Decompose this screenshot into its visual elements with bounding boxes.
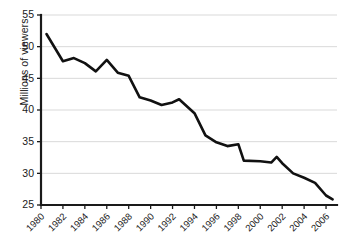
x-tick-label: 1982	[46, 211, 69, 234]
x-tick-label: 1980	[24, 211, 47, 234]
x-tick-label: 1992	[155, 211, 178, 234]
y-tick-label: 35	[22, 135, 34, 147]
x-tick-label: 2000	[243, 211, 266, 234]
x-axis-ticks-group: 1980198219841986198819901992199419961998…	[24, 205, 332, 233]
x-tick-label: 2006	[309, 211, 332, 234]
x-tick-label: 1986	[89, 211, 112, 234]
x-tick-label: 2004	[287, 211, 310, 234]
gridlines-group	[41, 15, 337, 173]
y-tick-label: 40	[22, 103, 34, 115]
x-tick-label: 1994	[177, 211, 200, 234]
y-tick-label: 55	[22, 8, 34, 20]
chart-plot-area: 25303540455055 1980198219841986198819901…	[0, 0, 341, 250]
x-tick-label: 1998	[221, 211, 244, 234]
line-chart: Millions of viewers 25303540455055 19801…	[0, 0, 341, 250]
y-axis-ticks-group: 25303540455055	[22, 8, 41, 210]
x-tick-label: 1988	[111, 211, 134, 234]
y-tick-label: 45	[22, 72, 34, 84]
x-tick-label: 1984	[68, 211, 91, 234]
y-tick-label: 25	[22, 198, 34, 210]
y-tick-label: 30	[22, 167, 34, 179]
y-tick-label: 50	[22, 40, 34, 52]
x-tick-label: 1996	[199, 211, 222, 234]
x-tick-label: 1990	[133, 211, 156, 234]
data-series-line	[46, 34, 332, 199]
x-tick-label: 2002	[265, 211, 288, 234]
